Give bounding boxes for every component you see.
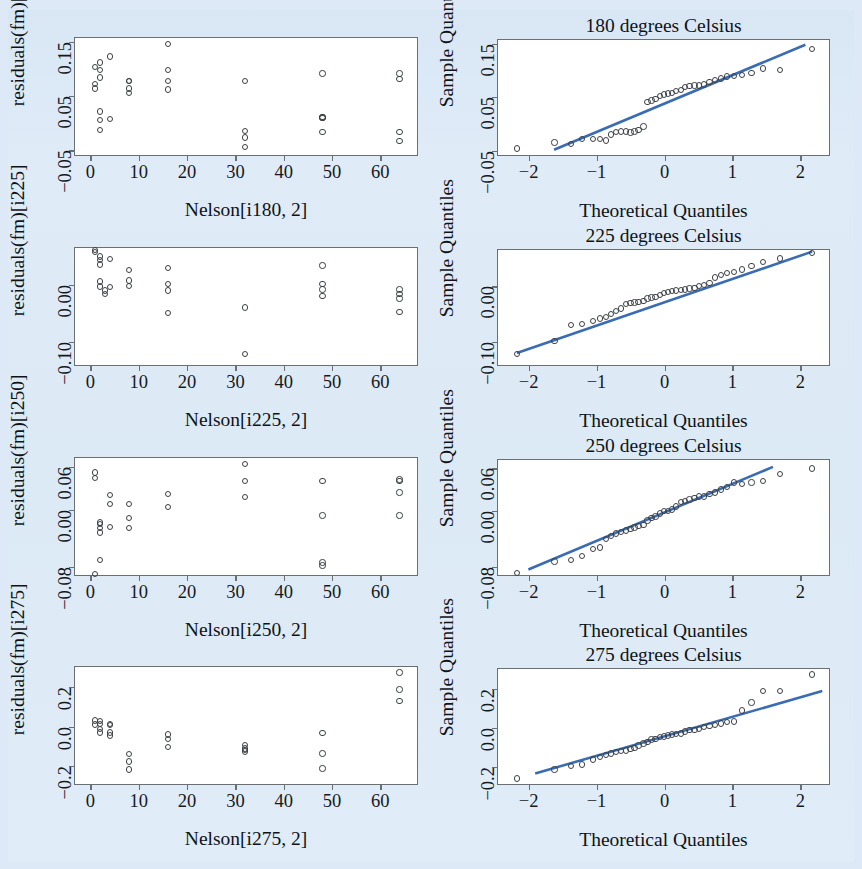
data-point (731, 73, 737, 79)
data-point (126, 90, 132, 96)
x-axis-tick-label: 1 (728, 583, 737, 602)
data-point (396, 76, 402, 82)
y-axis-tick-label: 0.00 (56, 285, 75, 317)
data-point (597, 544, 603, 550)
x-axis-tick (139, 575, 140, 581)
data-point (739, 266, 745, 272)
data-point (590, 756, 596, 762)
plot-panel-qq-275: 275 degrees Celsius−2−1012−0.20.00.2Theo… (430, 653, 862, 862)
x-axis-tick (529, 784, 530, 790)
x-axis-tick (90, 155, 91, 161)
data-point (126, 766, 132, 772)
x-axis-tick (332, 365, 333, 371)
data-point (107, 501, 113, 507)
plot-panel-qq-180: 180 degrees Celsius−2−1012−0.050.050.15T… (430, 24, 862, 233)
data-point (319, 562, 325, 568)
x-axis-tick (665, 784, 666, 790)
data-point (731, 479, 737, 485)
y-axis-title: residuals(fm)[i250] (8, 407, 28, 526)
data-point (97, 74, 103, 80)
data-point (107, 524, 113, 530)
data-point (731, 269, 737, 275)
panel-row: 0102030405060−0.20.00.2Nelson[i275, 2]re… (0, 653, 862, 862)
plot-frame: −2−1012−0.100.00 (497, 249, 830, 366)
x-axis-tick (90, 365, 91, 371)
data-point (242, 461, 248, 467)
data-point (319, 512, 325, 518)
data-point (551, 766, 557, 772)
data-point (165, 744, 171, 750)
data-point (551, 139, 557, 145)
y-axis-title: Sample Quantiles (437, 200, 457, 317)
x-axis-tick-label: 0 (660, 373, 669, 392)
y-axis-title: residuals(fm)[i225] (8, 197, 28, 316)
y-axis-tick-label: −0.2 (479, 767, 498, 801)
x-axis-tick (529, 575, 530, 581)
x-axis-tick-label: 0 (86, 163, 95, 182)
x-axis-tick (332, 784, 333, 790)
x-axis-tick-label: 30 (226, 373, 245, 392)
x-axis-tick (187, 365, 188, 371)
x-axis-tick-label: 0 (86, 583, 95, 602)
data-point (514, 145, 520, 151)
data-point (97, 529, 103, 535)
data-point (97, 261, 103, 267)
panel-row: 0102030405060−0.100.00Nelson[i225, 2]res… (0, 234, 862, 443)
y-axis-tick-label: −0.08 (479, 567, 498, 610)
data-point (551, 338, 557, 344)
y-axis-title: Sample Quantiles (437, 410, 457, 527)
data-point (603, 137, 609, 143)
y-axis-tick-label: −0.08 (56, 567, 75, 610)
x-axis-tick-label: 20 (178, 583, 197, 602)
y-axis-title: Sample Quantiles (437, 619, 457, 736)
x-axis-tick (187, 155, 188, 161)
x-axis-tick (187, 575, 188, 581)
data-point (165, 86, 171, 92)
data-point (107, 732, 113, 738)
x-axis-tick (665, 155, 666, 161)
plot-frame: 0102030405060−0.050.050.15 (74, 37, 418, 156)
x-axis-tick (380, 155, 381, 161)
x-axis-tick-label: 0 (660, 583, 669, 602)
qq-reference-line (498, 669, 829, 784)
x-axis-tick (597, 155, 598, 161)
data-point (97, 729, 103, 735)
data-point (396, 669, 402, 675)
x-axis-tick-label: 60 (371, 792, 390, 811)
data-point (165, 78, 171, 84)
data-point (165, 41, 171, 47)
y-axis-tick-label: −0.2 (56, 766, 75, 800)
x-axis-tick (529, 155, 530, 161)
data-point (242, 144, 248, 150)
data-point (107, 492, 113, 498)
data-point (319, 129, 325, 135)
data-point (242, 128, 248, 134)
x-axis-title: Theoretical Quantiles (497, 621, 830, 641)
x-axis-tick-label: −2 (519, 583, 539, 602)
y-axis-tick-label: 0.2 (479, 689, 498, 712)
data-point (242, 494, 248, 500)
plot-title: 250 degrees Celsius (497, 436, 830, 456)
x-axis-tick-label: 0 (660, 163, 669, 182)
x-axis-tick-label: 50 (323, 163, 342, 182)
data-point (514, 775, 520, 781)
data-point (165, 67, 171, 73)
y-axis-tick-label: −0.05 (56, 150, 75, 193)
x-axis-tick-label: −1 (587, 583, 607, 602)
x-axis-tick (732, 784, 733, 790)
x-axis-tick (332, 155, 333, 161)
data-point (514, 570, 520, 576)
x-axis-tick-label: 30 (226, 583, 245, 602)
x-axis-tick-label: 50 (323, 373, 342, 392)
x-axis-tick-label: 0 (86, 792, 95, 811)
y-axis-title: residuals(fm)[i180] (8, 0, 28, 106)
data-point (126, 283, 132, 289)
data-point (568, 763, 574, 769)
x-axis-title: Theoretical Quantiles (497, 201, 830, 221)
y-axis-tick-label: 0.00 (479, 511, 498, 543)
x-axis-tick (380, 784, 381, 790)
data-point (706, 280, 712, 286)
y-axis-tick-label: 0.06 (56, 467, 75, 499)
x-axis-tick (597, 365, 598, 371)
x-axis-tick-label: 60 (371, 163, 390, 182)
